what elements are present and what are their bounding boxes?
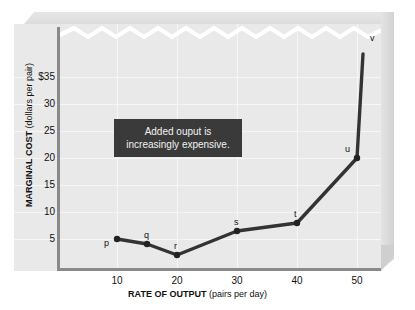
- x-tick-40: 40: [291, 275, 302, 286]
- point-label-s: s: [234, 217, 239, 227]
- y-axis-title: MARGINAL COST (dollars per pair): [24, 20, 34, 250]
- point-label-p: p: [104, 238, 109, 248]
- x-axis-title: RATE OF OUTPUT (pairs per day): [14, 289, 381, 299]
- point-label-v: v: [370, 33, 375, 43]
- chart-3d-right-bevel: [381, 12, 394, 270]
- y-axis-title-main: MARGINAL COST: [24, 131, 34, 207]
- callout-line-1: Added ouput is: [145, 125, 212, 138]
- y-tick-10: 10: [44, 206, 55, 217]
- y-tick-25: 25: [44, 125, 55, 136]
- x-axis-title-unit: (pairs per day): [209, 289, 267, 299]
- callout-line-2: increasingly expensive.: [126, 138, 229, 151]
- x-tick-10: 10: [111, 275, 122, 286]
- point-label-r: r: [174, 241, 177, 251]
- y-axis-title-unit: (dollars per pair): [24, 63, 34, 129]
- callout-annotation: Added ouput is increasingly expensive.: [114, 119, 242, 157]
- x-axis-title-main: RATE OF OUTPUT: [128, 289, 206, 299]
- point-label-u: u: [345, 144, 350, 154]
- y-tick-5: 5: [49, 233, 55, 244]
- y-tick-30: 30: [44, 98, 55, 109]
- y-tick-35: $35: [38, 71, 55, 82]
- y-tick-20: 20: [44, 152, 55, 163]
- point-label-t: t: [294, 209, 297, 219]
- x-tick-20: 20: [171, 275, 182, 286]
- axis-break-zigzag: [14, 24, 381, 48]
- x-axis-line: [57, 268, 381, 271]
- y-axis-tick-labels: $35 30 25 20 15 10 5: [14, 24, 55, 271]
- plot-area: p q r s t u v Added ouput is increasingl…: [14, 24, 381, 271]
- x-tick-30: 30: [231, 275, 242, 286]
- marginal-cost-chart-figure: p q r s t u v Added ouput is increasingl…: [0, 0, 415, 310]
- chart-3d-top-bevel: [24, 12, 392, 24]
- x-tick-50: 50: [351, 275, 362, 286]
- y-tick-15: 15: [44, 179, 55, 190]
- y-axis-line: [57, 27, 60, 271]
- x-axis-tick-labels: 10 20 30 40 50: [14, 275, 381, 289]
- point-label-q: q: [144, 230, 149, 240]
